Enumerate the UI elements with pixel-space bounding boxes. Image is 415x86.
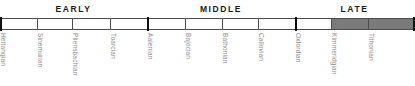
stage-cell-toarcian[interactable] [110,19,147,29]
boundary-tick-1 [37,18,38,30]
stage-cell-aalenian[interactable] [147,19,185,29]
epoch-label-late: LATE [295,4,414,15]
stage-cell-bajocian[interactable] [185,19,222,29]
geologic-timescale: EARLYMIDDLELATE HettangianSinemurianPlie… [0,0,415,86]
stage-label-sinemurian: Sinemurian [37,33,44,67]
epoch-label-middle: MIDDLE [147,4,295,15]
boundary-tick-0 [0,17,2,31]
stage-label-callovian: Callovian [258,33,265,61]
stage-label-bathonian: Bathonian [222,33,229,64]
stage-cell-bathonian[interactable] [222,19,258,29]
boundary-tick-2 [72,18,73,30]
stage-cell-tithonian[interactable] [368,19,414,29]
boundary-tick-8 [295,17,297,31]
stage-label-kimmeridgian: Kimmeridgian [331,33,338,75]
stage-label-hettangian: Hettangian [0,33,7,66]
boundary-tick-7 [258,18,259,30]
stage-cell-hettangian[interactable] [0,19,37,29]
timescale-bar [0,18,415,30]
stage-label-pliensbachian: Pliensbachian [72,33,79,75]
epoch-label-early: EARLY [0,4,147,15]
boundary-tick-6 [222,18,223,30]
stage-cell-callovian[interactable] [258,19,295,29]
stage-label-tithonian: Tithonian [368,33,375,61]
boundary-tick-3 [110,18,111,30]
stage-cell-sinemurian[interactable] [37,19,72,29]
boundary-tick-10 [368,18,369,30]
stage-cell-kimmeridgian[interactable] [331,19,368,29]
stage-cell-oxfordian[interactable] [295,19,331,29]
stage-label-bajocian: Bajocian [185,33,192,59]
stage-cell-pliensbachian[interactable] [72,19,110,29]
stage-label-aalenian: Aalenian [147,33,154,60]
stage-label-toarcian: Toarcian [110,33,117,59]
boundary-tick-5 [185,18,186,30]
stage-label-oxfordian: Oxfordian [295,33,302,63]
boundary-tick-9 [331,18,332,30]
boundary-tick-4 [147,17,149,31]
